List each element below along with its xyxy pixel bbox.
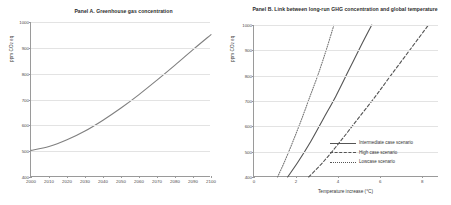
panel-a-y-axis-label-text: ppm CO — [9, 44, 14, 62]
x-axis-tick-label: 2060 — [134, 179, 144, 184]
y-axis-tick-label: 1000 — [242, 23, 252, 28]
y-axis-tick-mark — [252, 152, 254, 153]
panel-b-y-axis-label-tail: eq — [230, 36, 235, 43]
y-axis-tick-mark — [29, 151, 31, 152]
gridline — [31, 151, 210, 152]
panel-b-y-axis-label-text: ppm CO — [230, 44, 235, 62]
gridline — [31, 48, 210, 49]
panel-b: Panel B. Link between long-run GHG conce… — [225, 0, 451, 205]
x-axis-tick-label: 4 — [337, 179, 339, 184]
gridline — [254, 101, 438, 102]
y-axis-tick-mark — [29, 125, 31, 126]
two-panel-figure: Panel A. Greenhouse gas concentration pp… — [0, 0, 451, 205]
gridline — [31, 74, 210, 75]
legend-item: Intermediate case scenario — [330, 138, 413, 148]
x-axis-tick-label: 8 — [421, 179, 423, 184]
y-axis-tick-label: 500 — [245, 149, 252, 154]
panel-a-y-axis-label-sub: 2 — [10, 42, 14, 44]
legend-item: Lowcase scenario — [330, 157, 413, 167]
x-axis-tick-label: 2100 — [206, 179, 216, 184]
gridline — [254, 50, 438, 51]
legend-key-solid-icon — [330, 139, 356, 146]
y-axis-tick-mark — [252, 76, 254, 77]
y-axis-tick-mark — [29, 48, 31, 49]
y-axis-tick-label: 900 — [22, 45, 29, 50]
x-axis-tick-label: 2010 — [44, 179, 54, 184]
panel-a: Panel A. Greenhouse gas concentration pp… — [0, 0, 225, 205]
x-axis-tick-label: 2020 — [62, 179, 72, 184]
x-axis-tick-label: 2090 — [188, 179, 198, 184]
gridline — [31, 100, 210, 101]
y-axis-tick-mark — [29, 74, 31, 75]
legend-item: High case scenario — [330, 148, 413, 158]
panel-b-legend: Intermediate case scenarioHigh case scen… — [330, 138, 413, 167]
panel-a-y-axis-label: ppm CO2 eq — [9, 36, 14, 62]
y-axis-tick-label: 500 — [22, 149, 29, 154]
x-axis-tick-label: 2040 — [98, 179, 108, 184]
y-axis-tick-label: 800 — [22, 71, 29, 76]
y-axis-tick-label: 600 — [22, 123, 29, 128]
series-line — [31, 35, 211, 151]
y-axis-tick-label: 700 — [245, 99, 252, 104]
y-axis-tick-mark — [252, 50, 254, 51]
panel-a-plot-area: 4005006007008009001000200020102020203020… — [30, 22, 210, 177]
y-axis-tick-mark — [252, 101, 254, 102]
legend-item-label: Lowcase scenario — [359, 159, 395, 164]
gridline — [31, 22, 210, 23]
y-axis-tick-label: 700 — [22, 97, 29, 102]
panel-b-title: Panel B. Link between long-run GHG conce… — [247, 6, 443, 13]
panel-b-y-axis-label: ppm CO2 eq — [230, 36, 235, 62]
gridline — [31, 125, 210, 126]
panel-b-x-axis-label: Temperature increase (°C) — [253, 189, 438, 194]
y-axis-tick-label: 600 — [245, 124, 252, 129]
x-axis-tick-label: 2050 — [116, 179, 126, 184]
y-axis-tick-label: 1000 — [19, 20, 29, 25]
x-axis-tick-label: 2 — [295, 179, 297, 184]
panel-a-y-axis-label-tail: eq — [9, 36, 14, 43]
x-axis-tick-label: 2030 — [80, 179, 90, 184]
y-axis-tick-label: 800 — [245, 73, 252, 78]
x-axis-tick-label: 2080 — [170, 179, 180, 184]
x-axis-tick-label: 0 — [253, 179, 255, 184]
y-axis-tick-mark — [252, 126, 254, 127]
y-axis-tick-label: 400 — [245, 175, 252, 180]
legend-item-label: High case scenario — [359, 150, 397, 155]
gridline — [254, 25, 438, 26]
gridline — [254, 76, 438, 77]
panel-a-title: Panel A. Greenhouse gas concentration — [30, 8, 217, 15]
y-axis-tick-mark — [252, 25, 254, 26]
y-axis-tick-mark — [29, 100, 31, 101]
gridline — [254, 126, 438, 127]
x-axis-tick-label: 6 — [379, 179, 381, 184]
legend-item-label: Intermediate case scenario — [359, 140, 413, 145]
legend-key-dotted-icon — [330, 158, 356, 165]
legend-key-dashed-icon — [330, 149, 356, 156]
x-axis-tick-label: 2070 — [152, 179, 162, 184]
x-axis-tick-label: 2000 — [26, 179, 36, 184]
y-axis-tick-mark — [29, 22, 31, 23]
y-axis-tick-label: 900 — [245, 48, 252, 53]
panel-b-y-axis-label-sub: 2 — [231, 42, 235, 44]
